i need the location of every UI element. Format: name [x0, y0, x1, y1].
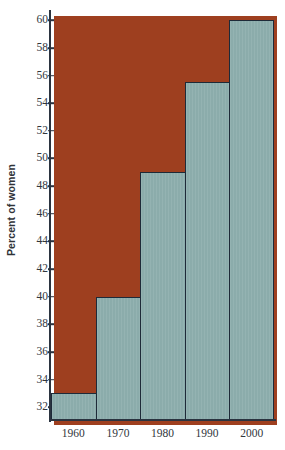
y-tick-label: 38 [22, 319, 48, 331]
bar [96, 297, 142, 421]
y-tick-label: 40 [22, 291, 48, 303]
plot-area [51, 12, 274, 421]
y-tick-label: 34 [22, 374, 48, 386]
bar [185, 82, 231, 421]
x-tick-label: 1990 [196, 427, 219, 439]
x-tick-label: 1960 [62, 427, 85, 439]
y-tick-label: 44 [22, 236, 48, 248]
y-axis-ticks: 323436384042444648505254565860 [16, 0, 48, 450]
bar-series [51, 12, 274, 421]
x-axis-ticks: 19601970198019902000 [51, 427, 274, 447]
bar [51, 393, 97, 421]
x-tick-label: 2000 [240, 427, 263, 439]
y-tick-label: 50 [22, 153, 48, 165]
y-tick-label: 58 [22, 42, 48, 54]
x-tick-label: 1980 [151, 427, 174, 439]
bar [140, 172, 186, 421]
y-tick-label: 32 [22, 401, 48, 413]
chart-figure: Percent of women 32343638404244464850525… [0, 0, 285, 450]
y-tick-label: 42 [22, 263, 48, 275]
y-tick-label: 60 [22, 15, 48, 27]
y-tick-label: 54 [22, 97, 48, 109]
y-tick-label: 46 [22, 208, 48, 220]
y-axis-line [49, 10, 51, 422]
x-tick-label: 1970 [106, 427, 129, 439]
y-tick-label: 48 [22, 180, 48, 192]
y-tick-label: 36 [22, 346, 48, 358]
y-tick-label: 52 [22, 125, 48, 137]
x-axis-line [49, 419, 276, 421]
bar [229, 20, 274, 421]
y-tick-label: 56 [22, 70, 48, 82]
